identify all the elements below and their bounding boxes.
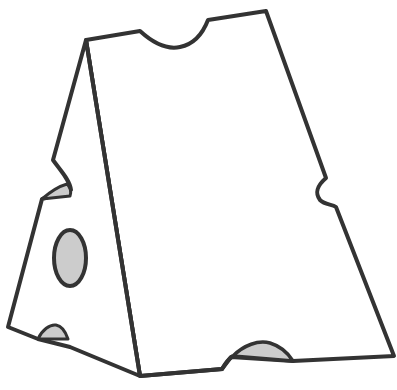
cheese-wedge-drawing	[0, 0, 397, 390]
cheese-hole-round	[54, 230, 86, 286]
cheese-hole-left-upper	[42, 184, 71, 199]
cheese-illustration: cheese wedge line drawing	[0, 0, 397, 390]
